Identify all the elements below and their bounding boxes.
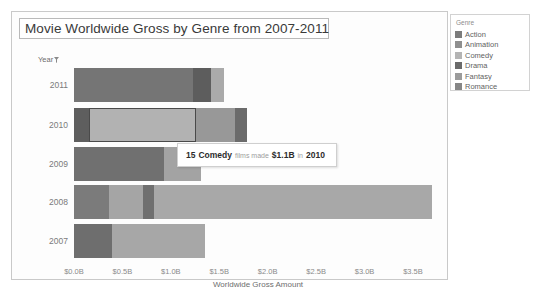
legend-items: ActionAnimationComedyDramaFantasyRomance [455,29,529,92]
legend-swatch-icon [455,83,462,90]
bar-row [74,68,442,102]
y-axis-header[interactable]: Year [38,55,59,64]
legend-swatch-icon [455,41,462,48]
legend-item-label: Romance [465,82,497,91]
bar-segment[interactable] [74,147,164,181]
bar-segment[interactable] [235,108,248,142]
bar-segment[interactable] [74,224,112,258]
bar-row [74,108,442,142]
x-axis-tick-label: $3.0B [355,267,375,276]
bar-segment[interactable] [74,185,109,219]
y-axis-tick-label: 2008 [16,197,68,207]
tooltip-year: 2010 [306,150,325,160]
legend-item[interactable]: Animation [455,40,529,51]
bar-segment[interactable] [74,68,193,102]
bar-segment[interactable] [112,224,205,258]
y-axis-tick-label: 2009 [16,159,68,169]
stacked-bar [74,108,247,142]
tooltip-amount: $1.1B [272,150,295,160]
legend-item-label: Animation [465,40,498,49]
stacked-bar [74,68,224,102]
legend-item-label: Action [465,30,486,39]
x-axis-tick-label: $1.5B [209,267,229,276]
bar-segment[interactable] [154,185,432,219]
page-title: Movie Worldwide Gross by Genre from 2007… [20,21,329,36]
legend-item-label: Drama [465,61,488,70]
y-axis-tick-label: 2011 [16,80,68,90]
legend-swatch-icon [455,52,462,59]
y-axis-tick-label: 2010 [16,120,68,130]
bar-segment[interactable] [193,68,210,102]
x-axis-tick-label: $3.5B [403,267,423,276]
legend-item-label: Fantasy [465,72,492,81]
funnel-icon[interactable] [54,57,59,63]
tooltip-in-text: in [298,152,303,159]
legend-item[interactable]: Fantasy [455,71,529,82]
x-axis-tick-label: $0.5B [113,267,133,276]
x-axis-tick-label: $0.0B [64,267,84,276]
bar-segment[interactable] [211,68,225,102]
tooltip-genre: Comedy [198,150,232,160]
x-axis-title: Worldwide Gross Amount [74,280,442,289]
legend-swatch-icon [455,31,462,38]
x-axis-tick-label: $1.0B [161,267,181,276]
bar-segment[interactable] [196,108,235,142]
tooltip: 15 Comedy films made $1.1B in 2010 [177,143,337,167]
stacked-bar [74,185,432,219]
x-axis-tick-label: $2.5B [306,267,326,276]
bar-row [74,224,442,258]
legend-item[interactable]: Romance [455,82,529,93]
x-axis-ticks: $0.0B$0.5B$1.0B$1.5B$2.0B$2.5B$3.0B$3.5B [74,267,442,279]
chart-panel: Movie Worldwide Gross by Genre from 2007… [11,11,448,280]
y-axis-tick-label: 2007 [16,236,68,246]
chart-title-box[interactable]: Movie Worldwide Gross by Genre from 2007… [19,18,329,39]
screenshot-root: Movie Worldwide Gross by Genre from 2007… [0,0,540,297]
legend-item[interactable]: Drama [455,61,529,72]
legend-title: Genre [455,19,529,26]
y-axis-header-label: Year [38,55,53,64]
bar-segment[interactable] [89,108,196,142]
legend-swatch-icon [455,73,462,80]
tooltip-mid-text: films made [235,152,269,159]
legend-panel: Genre ActionAnimationComedyDramaFantasyR… [450,14,530,91]
x-axis-tick-label: $2.0B [258,267,278,276]
legend-item[interactable]: Comedy [455,50,529,61]
bar-segment[interactable] [143,185,155,219]
legend-item[interactable]: Action [455,29,529,40]
bar-segment[interactable] [109,185,143,219]
legend-swatch-icon [455,62,462,69]
bar-row [74,185,442,219]
stacked-bar [74,224,205,258]
legend-item-label: Comedy [465,51,493,60]
bar-segment[interactable] [74,108,89,142]
tooltip-count: 15 [186,150,195,160]
